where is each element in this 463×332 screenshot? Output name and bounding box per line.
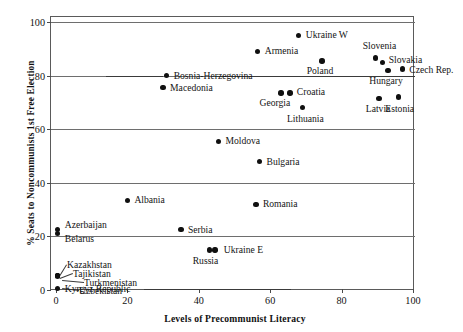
point-label: Bosnia-Herzegovina xyxy=(174,71,253,81)
x-tick-label-100: 100 xyxy=(405,295,420,306)
data-point[interactable] xyxy=(212,247,217,252)
y-tick-label-20: 20 xyxy=(35,231,45,242)
point-label: Hungary xyxy=(369,76,403,86)
bosnia-leader-left xyxy=(106,76,163,77)
data-point[interactable] xyxy=(257,159,262,164)
x-tick-label-80: 80 xyxy=(337,295,347,306)
y-tick-mark-40 xyxy=(47,183,51,184)
point-label: Moldova xyxy=(225,136,260,146)
y-tick-label-40: 40 xyxy=(35,177,45,188)
point-label: Croatia xyxy=(297,87,325,97)
y-tick-label-0: 0 xyxy=(40,285,45,296)
point-label: Ukraine E xyxy=(224,245,263,255)
data-point[interactable] xyxy=(164,73,169,78)
point-label: Estonia xyxy=(385,104,414,114)
plot-area: 020406080100 020406080100 Ukraine WArmen… xyxy=(50,16,414,290)
y-tick-label-100: 100 xyxy=(30,17,45,28)
data-point[interactable] xyxy=(376,96,381,101)
x-tick-label-60: 60 xyxy=(265,295,275,306)
data-point[interactable] xyxy=(400,66,405,71)
point-label: Azerbaijan xyxy=(65,220,107,230)
data-point[interactable] xyxy=(160,85,165,90)
gridline-y-40 xyxy=(51,183,415,184)
point-label: Poland xyxy=(307,66,334,76)
data-point[interactable] xyxy=(255,49,260,54)
data-point[interactable] xyxy=(216,139,221,144)
y-tick-mark-20 xyxy=(47,236,51,237)
data-point[interactable] xyxy=(125,198,130,203)
leader-line xyxy=(60,273,73,279)
y-tick-label-60: 60 xyxy=(35,124,45,135)
x-tick-label-20: 20 xyxy=(122,295,132,306)
y-tick-mark-80 xyxy=(47,76,51,77)
point-label: Romania xyxy=(263,199,298,209)
data-point[interactable] xyxy=(278,90,283,95)
data-point[interactable] xyxy=(385,68,390,73)
point-label: Slovenia xyxy=(363,41,397,51)
y-axis-title: % Seats to Noncommunists 1st Free Electi… xyxy=(26,23,36,283)
y-tick-mark-60 xyxy=(47,129,51,130)
data-point[interactable] xyxy=(287,90,292,95)
x-tick-mark-80 xyxy=(342,289,343,293)
point-label: Albania xyxy=(134,195,164,205)
data-point[interactable] xyxy=(300,105,305,110)
gridline-y-20 xyxy=(51,236,415,237)
data-point[interactable] xyxy=(396,94,401,99)
y-tick-mark-100 xyxy=(47,22,51,23)
point-label: Bulgaria xyxy=(266,158,299,168)
y-tick-mark-0 xyxy=(47,290,51,291)
gridline-y-60 xyxy=(51,129,415,130)
point-label: Serbia xyxy=(188,225,213,235)
data-point[interactable] xyxy=(178,227,183,232)
x-axis-title: Levels of Precommunist Literacy xyxy=(55,313,415,324)
x-tick-label-0: 0 xyxy=(53,295,58,306)
point-label: Ukraine W xyxy=(306,31,348,41)
scatter-chart-figure: % Seats to Noncommunists 1st Free Electi… xyxy=(0,0,463,332)
data-point[interactable] xyxy=(380,60,385,65)
data-point[interactable] xyxy=(253,202,258,207)
point-label: Lithuania xyxy=(287,114,324,124)
point-label: Russia xyxy=(193,256,219,266)
y-tick-label-80: 80 xyxy=(35,70,45,81)
x-tick-label-40: 40 xyxy=(194,295,204,306)
x-tick-mark-100 xyxy=(413,289,414,293)
gridline-y-100 xyxy=(51,22,415,23)
data-point[interactable] xyxy=(373,55,378,60)
kyrgyz-leader xyxy=(144,289,291,290)
point-label: Macedonia xyxy=(170,83,213,93)
data-point[interactable] xyxy=(207,247,212,252)
point-label: Czech Rep. xyxy=(409,65,453,75)
point-label: Kyrgyz Republic xyxy=(65,284,131,294)
data-point[interactable] xyxy=(296,33,301,38)
point-label: Georgia xyxy=(260,98,291,108)
data-point[interactable] xyxy=(319,58,324,63)
point-label: Belarus xyxy=(65,234,94,244)
point-label: Armenia xyxy=(265,47,299,57)
data-point[interactable] xyxy=(55,286,60,291)
